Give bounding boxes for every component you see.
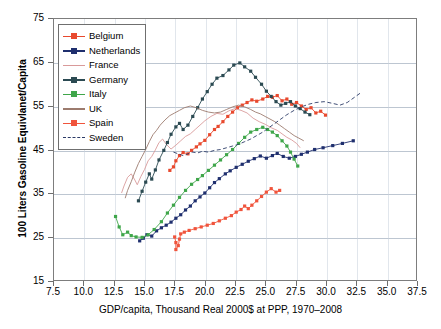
data-point	[285, 97, 288, 100]
data-point	[295, 101, 298, 104]
data-point	[231, 148, 234, 151]
data-point	[271, 154, 274, 157]
data-point	[313, 148, 316, 151]
legend-item-italy[interactable]: Italy	[63, 87, 142, 102]
data-point	[130, 234, 133, 237]
data-point	[308, 113, 311, 116]
data-point	[169, 221, 172, 224]
legend-marker	[71, 91, 77, 97]
legend-item-france[interactable]: France	[63, 58, 142, 73]
data-point	[200, 225, 203, 228]
data-point	[188, 229, 191, 232]
data-point	[182, 151, 185, 154]
legend-item-sweden[interactable]: Sweden	[63, 131, 142, 146]
data-point	[140, 236, 143, 239]
data-point	[284, 102, 287, 105]
legend-item-uk[interactable]: UK	[63, 102, 142, 117]
data-point	[182, 128, 185, 131]
data-point	[166, 141, 169, 144]
data-point	[153, 228, 156, 231]
data-point	[276, 134, 279, 137]
legend-swatch-icon	[63, 61, 85, 70]
gasoline-vs-gdp-scatter-line-chart: 100 Liters Gasoline Equivlanet/Capita 15…	[0, 0, 441, 329]
data-point	[239, 208, 242, 211]
legend-label: Belgium	[89, 31, 123, 41]
data-point	[255, 128, 258, 131]
data-point	[198, 142, 201, 145]
data-point	[254, 76, 257, 79]
data-point	[238, 61, 241, 64]
data-point	[282, 155, 285, 158]
data-point	[206, 90, 209, 93]
legend-label: Germany	[89, 75, 128, 85]
data-point	[195, 145, 198, 148]
data-point	[134, 235, 137, 238]
series-line	[140, 141, 354, 241]
y-tick-label: 75	[14, 13, 44, 23]
data-point	[208, 133, 211, 136]
data-point	[174, 125, 177, 128]
data-point	[235, 166, 238, 169]
x-axis-title: GDP/capita, Thousand Real 2000$ at PPP, …	[0, 304, 441, 315]
legend-swatch-icon	[63, 133, 85, 142]
data-point	[274, 191, 277, 194]
data-point	[154, 168, 157, 171]
data-point	[174, 217, 177, 220]
data-point	[296, 164, 299, 167]
data-point	[190, 149, 193, 152]
data-point	[265, 90, 268, 93]
data-point	[300, 153, 303, 156]
data-point	[173, 235, 176, 238]
data-point	[137, 199, 140, 202]
series-line	[175, 189, 280, 250]
data-point	[196, 178, 199, 181]
legend-swatch-icon	[63, 46, 85, 55]
y-tick-label: 35	[14, 188, 44, 198]
data-point	[261, 97, 264, 100]
legend-item-netherlands[interactable]: Netherlands	[63, 44, 142, 59]
legend-swatch-icon	[63, 75, 85, 84]
data-point	[235, 211, 238, 214]
legend-item-spain[interactable]: Spain	[63, 116, 142, 131]
data-point	[280, 99, 283, 102]
data-point	[168, 169, 171, 172]
data-point	[201, 174, 204, 177]
legend[interactable]: BelgiumNetherlandsFranceGermanyItalyUKSp…	[58, 24, 146, 150]
legend-item-belgium[interactable]: Belgium	[63, 29, 142, 44]
legend-swatch-icon	[63, 32, 85, 41]
data-point	[118, 225, 121, 228]
legend-line	[63, 108, 85, 110]
data-point	[319, 110, 322, 113]
data-point	[261, 126, 264, 129]
data-point	[186, 124, 189, 127]
data-point	[230, 214, 233, 217]
y-tick-label: 15	[14, 276, 44, 286]
data-point	[221, 74, 224, 77]
data-point	[160, 226, 163, 229]
data-point	[225, 153, 228, 156]
series-line	[125, 105, 304, 198]
legend-label: France	[89, 60, 119, 70]
data-point	[203, 191, 206, 194]
data-point	[224, 172, 227, 175]
legend-line	[63, 65, 85, 67]
data-point	[189, 204, 192, 207]
data-point	[172, 204, 175, 207]
data-point	[265, 191, 268, 194]
data-point	[184, 189, 187, 192]
data-point	[166, 211, 169, 214]
legend-item-germany[interactable]: Germany	[63, 73, 142, 88]
data-point	[249, 70, 252, 73]
data-point	[229, 169, 232, 172]
data-point	[255, 199, 258, 202]
data-point	[352, 139, 355, 142]
legend-swatch-icon	[63, 119, 85, 128]
data-point	[160, 220, 163, 223]
data-point	[306, 151, 309, 154]
data-point	[303, 110, 306, 113]
data-point	[293, 157, 296, 160]
data-point	[169, 133, 172, 136]
series-spain	[173, 187, 281, 251]
data-point	[274, 100, 277, 103]
data-point	[231, 110, 234, 113]
